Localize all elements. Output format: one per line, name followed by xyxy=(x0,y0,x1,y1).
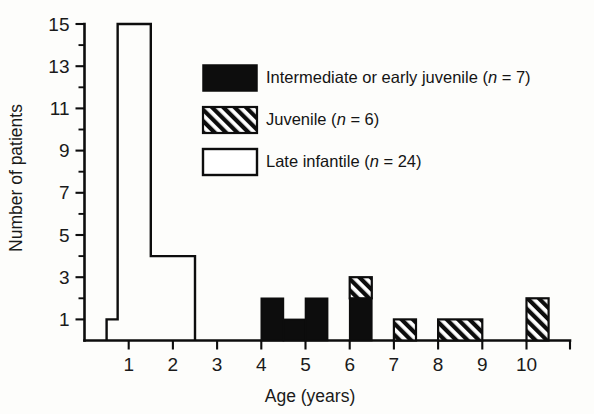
x-axis: 12345678910 xyxy=(85,341,571,375)
legend-item-label: Intermediate or early juvenile (n = 7) xyxy=(266,68,531,86)
bar-hatched xyxy=(394,319,416,340)
bar-solid xyxy=(350,298,372,340)
legend-swatch-open xyxy=(203,149,257,175)
x-tick-label: 3 xyxy=(212,354,223,375)
x-tick-label: 7 xyxy=(389,354,400,375)
x-tick-label: 2 xyxy=(168,354,179,375)
bar-group-late-infantile xyxy=(107,24,195,341)
chart-page: 13579111315 12345678910 Intermediate or … xyxy=(0,0,594,414)
y-axis: 13579111315 xyxy=(48,14,84,341)
x-tick-label: 4 xyxy=(256,354,267,375)
x-tick-label: 1 xyxy=(123,354,134,375)
bar-solid xyxy=(306,298,328,340)
legend-item-label: Juvenile (n = 6) xyxy=(266,110,379,128)
legend-swatch-hatched xyxy=(203,107,257,133)
y-tick-label: 11 xyxy=(50,98,70,119)
x-tick-label: 9 xyxy=(477,354,488,375)
x-axis-title: Age (years) xyxy=(265,386,355,406)
legend-item-label: Late infantile (n = 24) xyxy=(266,152,422,170)
y-tick-label: 1 xyxy=(59,309,70,330)
x-tick-label: 8 xyxy=(433,354,444,375)
bar-hatched xyxy=(527,298,549,340)
x-tick-label: 10 xyxy=(516,354,537,375)
bar-hatched xyxy=(350,277,372,298)
y-tick-label: 3 xyxy=(59,267,70,288)
x-tick-label: 6 xyxy=(344,354,355,375)
bar-solid xyxy=(261,298,283,340)
chart-legend: Intermediate or early juvenile (n = 7)Ju… xyxy=(203,65,531,175)
y-tick-label: 9 xyxy=(59,140,70,161)
histogram-chart: 13579111315 12345678910 Intermediate or … xyxy=(0,0,594,414)
bar-hatched xyxy=(438,319,482,340)
y-axis-title: Number of patients xyxy=(6,104,26,252)
y-tick-label: 13 xyxy=(48,56,69,77)
y-tick-label: 7 xyxy=(59,182,70,203)
legend-swatch-solid xyxy=(203,65,257,91)
y-tick-label: 5 xyxy=(59,225,70,246)
bar-solid xyxy=(283,319,305,340)
x-tick-label: 5 xyxy=(300,354,311,375)
y-tick-label: 15 xyxy=(48,14,69,35)
